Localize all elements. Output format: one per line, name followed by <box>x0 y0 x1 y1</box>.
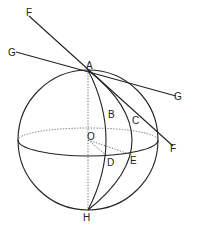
label-A: A <box>86 60 93 71</box>
label-E: E <box>130 155 137 166</box>
label-G-left: G <box>8 47 16 58</box>
sphere-diagram: F G A G B C O D E F H <box>0 0 198 234</box>
radius-OD <box>88 140 107 156</box>
label-F-top: F <box>26 7 32 18</box>
label-B: B <box>108 109 115 120</box>
label-G-right: G <box>174 91 182 102</box>
label-H: H <box>83 212 90 223</box>
label-O: O <box>87 131 95 142</box>
label-F-bottom: F <box>170 143 176 154</box>
label-C: C <box>132 115 139 126</box>
radius-OE <box>88 140 132 155</box>
label-D: D <box>107 157 114 168</box>
equator-front <box>18 140 158 156</box>
